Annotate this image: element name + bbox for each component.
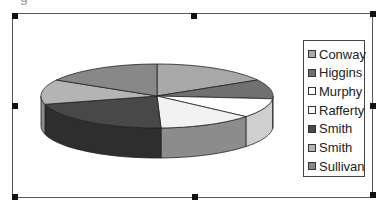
legend-swatch-icon [308,50,316,58]
legend-item[interactable]: Murphy [308,82,362,100]
legend-item[interactable]: Higgins [308,64,362,82]
legend-label: Smith [319,140,352,155]
legend-label: Higgins [319,65,362,80]
legend-label: Murphy [319,84,362,99]
legend-label: Sullivan [319,159,365,174]
legend-label: Rafferty [319,103,364,118]
legend-label: Conway [319,47,366,62]
legend-swatch-icon [308,162,316,170]
legend-item[interactable]: Rafferty [308,101,364,119]
legend-swatch-icon [308,106,316,114]
legend-swatch-icon [308,87,316,95]
legend-item[interactable]: Conway [308,45,366,63]
legend-item[interactable]: Sullivan [308,157,365,175]
legend-swatch-icon [308,144,316,152]
legend-item[interactable]: Smith [308,120,352,138]
chart-legend[interactable]: ConwayHigginsMurphyRaffertySmithSmithSul… [303,40,365,177]
legend-swatch-icon [308,69,316,77]
legend-label: Smith [319,121,352,136]
legend-item[interactable]: Smith [308,139,352,157]
legend-swatch-icon [308,125,316,133]
